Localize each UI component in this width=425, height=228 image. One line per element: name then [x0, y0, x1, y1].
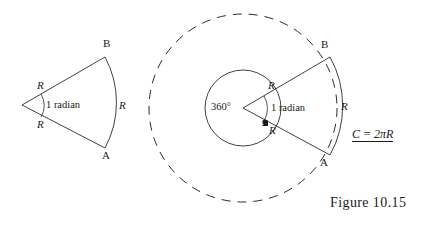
left-angle-arc: [41, 94, 44, 117]
right-upper-radius-line: [243, 57, 330, 108]
left-arc-length-label: R: [119, 100, 126, 111]
left-point-b-label: B: [103, 38, 110, 49]
left-point-a-label: A: [102, 150, 110, 161]
right-lower-radius-label: R: [269, 125, 276, 136]
circumference-formula: C = 2πR: [352, 128, 393, 142]
right-point-b-label: B: [321, 39, 328, 50]
figure-10-15: B A R R R 1 radian B A R R R 1 radian 36…: [0, 0, 425, 228]
right-lower-radius-line: [243, 108, 330, 155]
left-lower-radius-label: R: [37, 119, 44, 130]
right-upper-radius-label: R: [268, 80, 275, 91]
right-angle-arc: [264, 96, 268, 121]
right-point-a-label: A: [320, 157, 328, 168]
right-figure-group: [149, 14, 343, 202]
left-lower-radius-line: [22, 105, 105, 148]
figure-caption: Figure 10.15: [330, 196, 406, 210]
figure-drawing: [0, 0, 425, 228]
full-turn-label: 360°: [211, 102, 231, 113]
right-arc-length-label: R: [341, 101, 348, 112]
right-angle-label: 1 radian: [271, 103, 305, 114]
left-upper-radius-line: [22, 57, 105, 105]
left-angle-label: 1 radian: [46, 100, 80, 111]
left-upper-radius-label: R: [37, 80, 44, 91]
left-outer-arc: [105, 57, 116, 148]
